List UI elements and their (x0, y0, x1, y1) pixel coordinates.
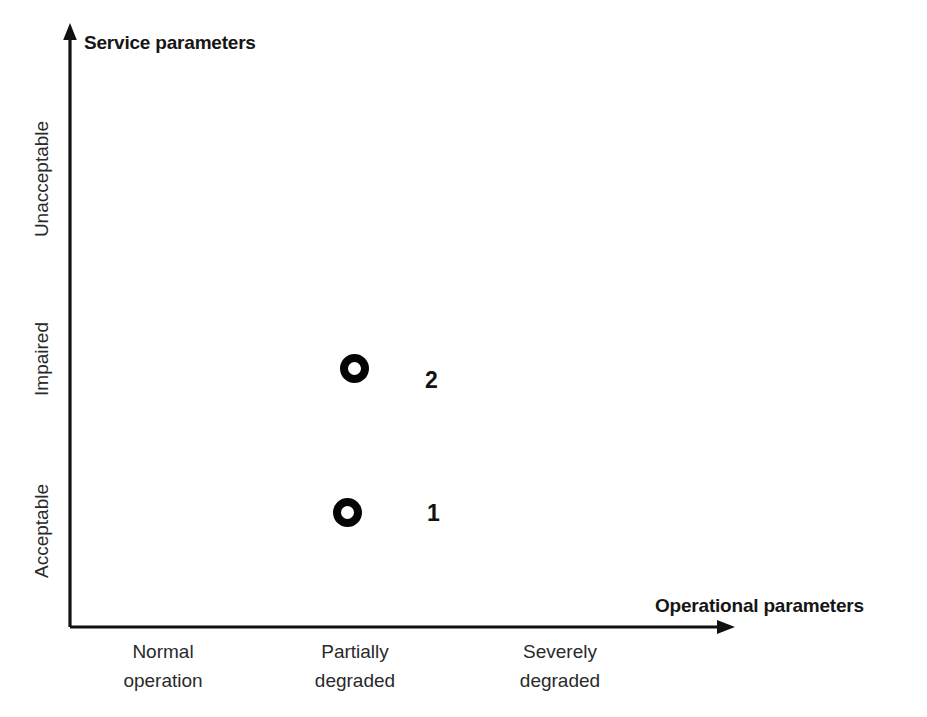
data-point-label-2: 2 (425, 367, 438, 394)
y-axis-title: Service parameters (84, 32, 256, 54)
x-tick-line-1: Severely (460, 637, 660, 666)
chart-figure: Service parameters Operational parameter… (0, 0, 927, 717)
x-tick-label-partially-degraded: Partially degraded (255, 637, 455, 695)
data-point-label-1: 1 (427, 500, 440, 527)
x-axis-arrowhead (717, 620, 735, 634)
y-axis-arrowhead (63, 23, 77, 40)
x-tick-line-2: degraded (255, 666, 455, 695)
x-tick-label-normal-operation: Normal operation (63, 637, 263, 695)
x-tick-line-1: Partially (255, 637, 455, 666)
x-tick-line-1: Normal (63, 637, 263, 666)
y-tick-label-acceptable: Acceptable (31, 381, 53, 681)
data-point-marker-2 (340, 354, 369, 383)
x-tick-line-2: operation (63, 666, 263, 695)
x-axis-title: Operational parameters (655, 595, 864, 617)
x-tick-line-2: degraded (460, 666, 660, 695)
data-point-marker-1 (333, 498, 362, 527)
x-tick-label-severely-degraded: Severely degraded (460, 637, 660, 695)
